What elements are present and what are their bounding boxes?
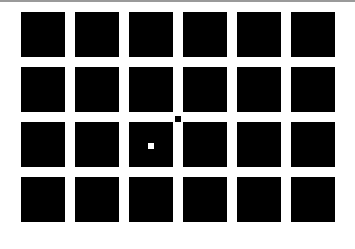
grid-square bbox=[291, 12, 335, 57]
grid-square bbox=[291, 122, 335, 167]
grid-square bbox=[75, 12, 119, 57]
grid-square bbox=[129, 177, 173, 222]
grid-square bbox=[291, 67, 335, 112]
grid-square bbox=[21, 122, 65, 167]
grid-square bbox=[237, 122, 281, 167]
grid-square bbox=[129, 67, 173, 112]
grid-square bbox=[183, 177, 227, 222]
grid-square bbox=[21, 67, 65, 112]
grid-square bbox=[75, 67, 119, 112]
grid-square bbox=[129, 12, 173, 57]
grid-square bbox=[291, 177, 335, 222]
grid-square bbox=[237, 12, 281, 57]
grid-square bbox=[237, 177, 281, 222]
white-dot bbox=[148, 143, 154, 149]
grid-square bbox=[21, 12, 65, 57]
grid-square bbox=[183, 67, 227, 112]
grid-square bbox=[75, 177, 119, 222]
grid-square bbox=[21, 177, 65, 222]
grid-square bbox=[75, 122, 119, 167]
grid-square bbox=[237, 67, 281, 112]
grid-square bbox=[183, 122, 227, 167]
top-border bbox=[0, 0, 355, 2]
grid-square bbox=[183, 12, 227, 57]
black-dot bbox=[175, 116, 181, 122]
